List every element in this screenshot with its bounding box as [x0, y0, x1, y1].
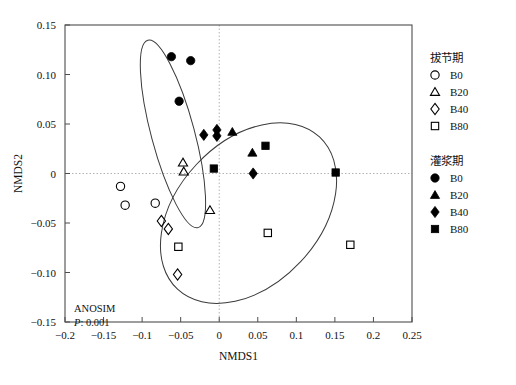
- y-tick-label-1: 0.10: [37, 69, 57, 81]
- data-point-灌浆期-B20: [248, 148, 257, 156]
- anosim-label: ANOSIM: [74, 303, 116, 314]
- data-point-灌浆期-B0: [167, 53, 175, 61]
- legend-item-label-0-1: B20: [450, 86, 469, 98]
- x-tick-label-1: −0.15: [91, 329, 117, 341]
- data-point-灌浆期-B40: [200, 129, 208, 140]
- anosim-p-symbol: P: 0.001: [73, 317, 110, 328]
- y-tick-label-2: 0.05: [37, 118, 57, 130]
- legend-marker-灌浆期-B20: [430, 191, 439, 199]
- x-tick-label-7: 0.15: [325, 329, 345, 341]
- legend-marker-拔节期-B0: [431, 71, 439, 79]
- x-tick-label-3: −0.05: [168, 329, 194, 341]
- data-point-拔节期-B40: [164, 223, 172, 234]
- data-point-拔节期-B20: [178, 158, 187, 166]
- x-tick-label-0: −0.2: [55, 329, 75, 341]
- y-axis-title: NMDS2: [12, 154, 24, 193]
- y-tick-label-5: −0.10: [31, 267, 57, 279]
- x-axis-title: NMDS1: [219, 350, 258, 362]
- legend-marker-灌浆期-B0: [431, 174, 439, 182]
- filling-cluster-ellipse: [125, 88, 371, 337]
- x-tick-label-8: 0.2: [367, 329, 381, 341]
- data-point-拔节期-B0: [151, 199, 159, 207]
- nmds-chart-figure: −0.2−0.15−0.1−0.0500.050.10.150.20.250.1…: [0, 0, 516, 385]
- legend-marker-灌浆期-B40: [431, 206, 439, 217]
- legend-group-title-1: 灌浆期: [430, 154, 463, 168]
- y-tick-label-0: 0.15: [37, 19, 57, 31]
- legend-marker-灌浆期-B80: [431, 225, 438, 232]
- legend-marker-拔节期-B80: [431, 122, 438, 129]
- data-point-拔节期-B40: [173, 269, 181, 280]
- data-point-拔节期-B80: [347, 241, 354, 248]
- y-tick-label-4: −0.05: [31, 217, 57, 229]
- legend-marker-拔节期-B20: [430, 88, 439, 96]
- legend-marker-拔节期-B40: [431, 103, 439, 114]
- data-point-拔节期-B0: [121, 201, 129, 209]
- data-point-灌浆期-B40: [249, 168, 257, 179]
- y-tick-label-6: −0.15: [31, 316, 57, 328]
- legend-item-label-0-2: B40: [450, 103, 469, 115]
- x-tick-label-9: 0.25: [402, 329, 422, 341]
- x-tick-label-4: 0: [216, 329, 222, 341]
- legend-group-title-0: 拔节期: [430, 51, 463, 65]
- x-tick-label-2: −0.1: [132, 329, 152, 341]
- data-point-灌浆期-B20: [228, 128, 237, 136]
- data-point-灌浆期-B0: [175, 97, 183, 105]
- legend-item-label-1-2: B40: [450, 206, 469, 218]
- y-tick-label-3: 0: [51, 168, 57, 180]
- x-tick-label-5: 0.05: [248, 329, 268, 341]
- x-tick-label-6: 0.1: [289, 329, 303, 341]
- legend-item-label-1-3: B80: [450, 223, 469, 235]
- data-point-灌浆期-B0: [187, 56, 195, 64]
- legend-item-label-1-0: B0: [450, 172, 463, 184]
- data-point-灌浆期-B80: [332, 169, 339, 176]
- data-point-灌浆期-B80: [262, 142, 269, 149]
- nmds-plot-svg: −0.2−0.15−0.1−0.0500.050.10.150.20.250.1…: [0, 0, 516, 385]
- data-point-拔节期-B80: [264, 229, 271, 236]
- data-point-拔节期-B20: [205, 206, 214, 214]
- data-point-灌浆期-B80: [210, 165, 217, 172]
- data-point-拔节期-B80: [175, 243, 182, 250]
- legend-item-label-0-3: B80: [450, 120, 469, 132]
- legend-item-label-1-1: B20: [450, 189, 469, 201]
- data-point-拔节期-B0: [116, 182, 124, 190]
- legend-item-label-0-0: B0: [450, 69, 463, 81]
